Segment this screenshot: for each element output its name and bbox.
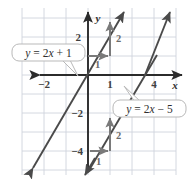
coordinate-plane-svg: −2 1 4 2 −2 −4 x y 2 1 2 1 y=2x+1 y=2x−5 — [0, 0, 194, 182]
line-2-operator: − — [158, 103, 165, 115]
line-2-constant: 5 — [167, 103, 173, 115]
y-axis-label: y — [94, 12, 101, 24]
line-1-operator: + — [57, 47, 64, 59]
line-2-equals: = — [134, 103, 141, 115]
upper-rise-label: 2 — [116, 33, 121, 44]
line-2-variable: x — [149, 103, 156, 115]
lower-run-label: 1 — [96, 156, 101, 167]
line-1-variable: x — [48, 47, 55, 59]
line-1-equals: = — [33, 47, 40, 59]
line-1-lhs: y — [24, 47, 31, 60]
y-tick-label-neg4: −4 — [71, 145, 83, 157]
x-tick-label-1: 1 — [107, 78, 113, 90]
line-1-constant: 1 — [66, 47, 72, 59]
x-tick-label-4: 4 — [151, 78, 157, 90]
upper-run-label: 1 — [95, 59, 100, 70]
y-tick-label-neg2: −2 — [71, 107, 83, 119]
x-axis-label: x — [171, 79, 178, 91]
lower-rise-label: 2 — [116, 130, 121, 141]
y-tick-label-2: 2 — [76, 31, 82, 43]
line-2-lhs: y — [125, 103, 132, 116]
graph-figure: −2 1 4 2 −2 −4 x y 2 1 2 1 y=2x+1 y=2x−5 — [0, 0, 194, 182]
x-tick-label-neg2: −2 — [38, 78, 50, 90]
